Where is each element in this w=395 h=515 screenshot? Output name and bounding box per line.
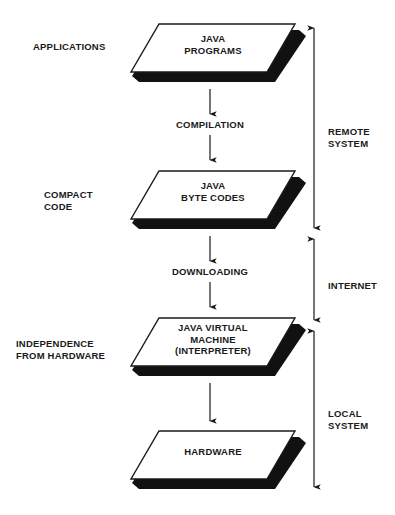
java-architecture-diagram: APPLICATIONS COMPACT CODE INDEPENDENCE F… bbox=[0, 0, 395, 515]
slab-label-java-virtual-machine: JAVA VIRTUAL MACHINE (INTERPRETER) bbox=[128, 322, 298, 357]
left-label-applications: APPLICATIONS bbox=[33, 41, 105, 53]
transition-label-downloading: DOWNLOADING bbox=[130, 266, 290, 277]
slab-label-hardware: HARDWARE bbox=[128, 446, 298, 458]
left-label-compact-code: COMPACT CODE bbox=[44, 189, 93, 212]
scope-label-internet: INTERNET bbox=[328, 280, 377, 292]
transition-label-compilation: COMPILATION bbox=[130, 119, 290, 130]
slab-label-java-byte-codes: JAVA BYTE CODES bbox=[128, 180, 298, 203]
left-label-independence-from-hardware: INDEPENDENCE FROM HARDWARE bbox=[16, 338, 105, 361]
diagram-graphics bbox=[0, 0, 395, 515]
slab-hardware bbox=[131, 431, 306, 489]
scope-label-local-system: LOCAL SYSTEM bbox=[328, 408, 368, 431]
slab-label-java-programs: JAVA PROGRAMS bbox=[128, 33, 298, 56]
scope-label-remote-system: REMOTE SYSTEM bbox=[328, 126, 370, 149]
